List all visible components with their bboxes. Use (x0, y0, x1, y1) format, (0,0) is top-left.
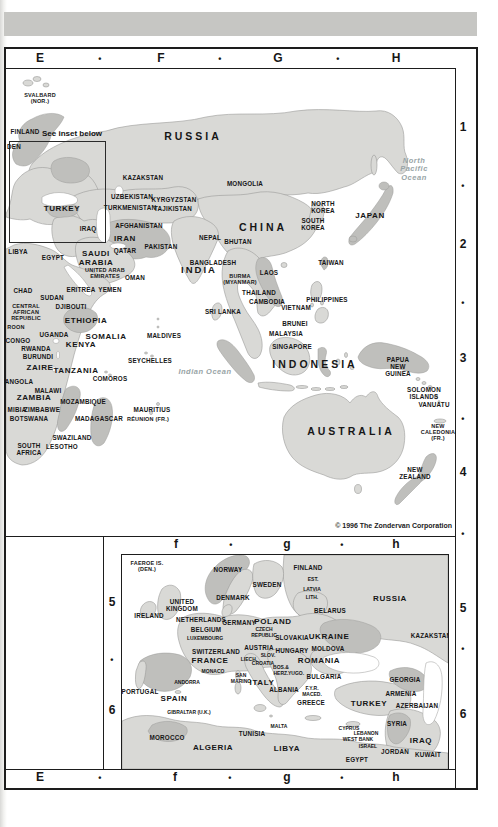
moluccas-shape (345, 353, 348, 358)
country-label: MALDIVES (147, 332, 181, 339)
country-label: AFGHANISTAN (115, 222, 163, 229)
country-label: JORDAN (381, 748, 409, 755)
country-label: LIBYA (8, 248, 27, 255)
country-label: TURKEY (351, 700, 388, 709)
solomon-islands-shape (422, 382, 426, 385)
country-label: CROATIA (252, 661, 274, 667)
country-label: CENTRAL AFRICAN REPUBLIC (11, 303, 41, 321)
country-label: SINGAPORE (272, 343, 312, 350)
country-label: SOUTH AFRICA (17, 442, 42, 456)
lesser-sunda-shape (311, 388, 321, 391)
country-label: DJIBOUTI (56, 303, 87, 310)
country-label: PHILIPPINES (306, 296, 347, 303)
country-label: THAILAND (242, 289, 276, 296)
country-label: NEPAL (199, 234, 221, 241)
country-label: IRAN (114, 235, 136, 244)
country-label: BOTSWANA (10, 415, 48, 422)
lake-tanganyika-shape (57, 351, 60, 359)
inset-note-label: See inset below (42, 129, 102, 138)
country-label: SLOVAKIA (275, 634, 309, 641)
country-label: KAZAKSTAN (411, 632, 449, 639)
country-label: UGANDA (40, 331, 69, 338)
country-label: RUSSIA (164, 131, 222, 143)
inset-portugal-shape (135, 661, 146, 689)
philippine-island-shape (311, 303, 314, 307)
country-label: VANUATU (418, 401, 449, 408)
country-label: SYRIA (387, 720, 407, 727)
country-label: SEYCHELLES (128, 357, 172, 364)
lesser-sunda-shape (296, 386, 308, 389)
seychelles-shape (145, 352, 148, 354)
country-label: MALAYSIA (269, 330, 303, 337)
country-label: IRAQ (80, 225, 97, 232)
svalbard-shape (23, 80, 33, 86)
country-label: DENMARK (216, 594, 250, 601)
country-label: ZIMBABWE (24, 406, 60, 413)
main-map-bottom-divider (4, 536, 456, 537)
country-label: ALGERIA (193, 744, 233, 753)
country-label: YEMEN (98, 286, 121, 293)
country-label: LIBYA (274, 745, 300, 754)
country-label: ANGOLA (6, 378, 33, 385)
country-label: PAPUA NEW GUINEA (385, 356, 411, 377)
country-label: TUNISIA (239, 730, 266, 737)
country-label: SVALBARD (NOR.) (24, 92, 56, 104)
sakhalin-shape (371, 155, 377, 175)
java-shape (258, 382, 294, 391)
country-label: FINLAND (10, 128, 39, 135)
country-label: CHAD (14, 287, 33, 294)
country-label: BELGIUM (191, 626, 221, 633)
country-label: NEW CALEDONIA (FR.) (421, 423, 455, 441)
country-label: KAZAKSTAN (123, 174, 164, 181)
solomon-islands-shape (416, 378, 420, 381)
country-label: CZECH REPUBLIC (251, 627, 277, 638)
country-label: ANDORRA (174, 680, 200, 686)
country-label: SAN MARINO (231, 673, 251, 684)
country-label: PAKISTAN (145, 243, 178, 250)
japan-kyushu-shape (349, 236, 357, 242)
country-label: BOS.& HERZ. (273, 665, 289, 676)
mindanao-shape (315, 307, 328, 323)
country-label: KYRGYZSTAN (152, 196, 197, 203)
copyright-label: © 1996 The Zondervan Corporation (335, 522, 452, 529)
country-label: MONACO (202, 669, 225, 675)
lesser-sunda-shape (325, 388, 335, 391)
country-label: MALTA (271, 724, 288, 730)
country-label: NORWAY (214, 566, 243, 573)
country-label: KENYA (66, 341, 96, 350)
country-label: ALBANIA (269, 686, 299, 693)
japan-hokkaido-shape (379, 182, 389, 190)
country-label: POLAND (254, 618, 291, 627)
country-label: LAOS (260, 269, 278, 276)
country-label: MADAGASCAR (75, 415, 123, 422)
mauritius-shape (157, 403, 160, 406)
ocean-label: North Pacific Ocean (400, 157, 428, 182)
country-label: WEST BANK (343, 737, 373, 743)
country-label: QATAR (114, 247, 136, 254)
country-label: PORTUGAL (122, 688, 159, 695)
inset-finland-shape (253, 560, 284, 598)
country-label: TURKEY (44, 205, 81, 214)
main-map: See inset below © 1996 The Zondervan Cor… (6, 69, 455, 536)
country-label: JAPAN (355, 212, 385, 221)
country-label: INDONESIA (272, 359, 357, 371)
country-label: RWANDA (21, 345, 50, 352)
tasmania-shape (355, 485, 362, 494)
hainan-shape (281, 263, 287, 268)
country-label: SLOV. (261, 653, 276, 659)
country-label: AUSTRALIA (307, 426, 395, 438)
inset-left-divider (103, 536, 104, 770)
svalbard-shape (43, 83, 49, 87)
country-label: F.Y.R. MACED. (302, 686, 322, 697)
country-label: GIBRALTAR (U.K.) (167, 710, 210, 716)
country-label: TAJIKISTAN (154, 205, 192, 212)
country-label: TURKMENISTAN (104, 204, 156, 211)
country-label: FRANCE (192, 657, 229, 666)
country-label: SOLOMON ISLANDS (407, 386, 441, 400)
country-label: SWEDEN (253, 581, 282, 588)
svalbard-shape (33, 77, 41, 82)
country-label: ISRAEL (359, 744, 377, 750)
country-label: ARMENIA (386, 690, 417, 697)
country-label: IRAQ (410, 737, 432, 746)
country-label: VIETNAM (281, 304, 311, 311)
